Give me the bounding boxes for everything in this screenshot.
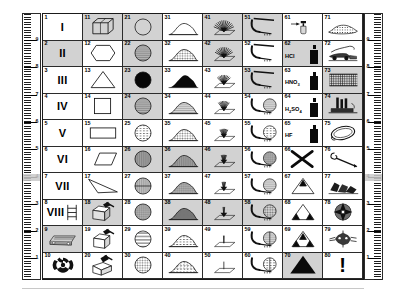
grid-cell-52[interactable]: 52 bbox=[243, 41, 283, 68]
grid-cell-59[interactable]: 59 bbox=[243, 226, 283, 253]
grid-cell-27[interactable]: 27 bbox=[123, 173, 163, 200]
grid-cell-41[interactable]: 41 bbox=[203, 14, 243, 41]
ruler-tick bbox=[374, 118, 381, 119]
ruler-label-5: 5 bbox=[36, 146, 39, 151]
grid-cell-48[interactable]: 48 bbox=[203, 200, 243, 227]
grid-cell-47[interactable]: 47 bbox=[203, 173, 243, 200]
ruler-tick bbox=[374, 30, 381, 31]
grid-cell-66[interactable]: 66 bbox=[283, 147, 323, 174]
grid-cell-35[interactable]: 35 bbox=[163, 120, 203, 147]
grid-cell-60[interactable]: 60 bbox=[243, 253, 283, 280]
ruler-tick bbox=[24, 50, 31, 51]
grid-cell-54[interactable]: 54 bbox=[243, 94, 283, 121]
grid-cell-51[interactable]: 51 bbox=[243, 14, 283, 41]
grid-cell-11[interactable]: 11 bbox=[83, 14, 123, 41]
grid-cell-67[interactable]: 67 bbox=[283, 173, 323, 200]
ruler-tick bbox=[374, 170, 381, 171]
grid-cell-50[interactable]: 50 bbox=[203, 253, 243, 280]
grid-cell-76[interactable]: 76 bbox=[323, 147, 363, 174]
grid-cell-80[interactable]: 80! bbox=[323, 253, 363, 280]
grid-cell-64[interactable]: 64H2SO4 bbox=[283, 94, 323, 121]
grid-cell-38[interactable]: 38 bbox=[163, 200, 203, 227]
grid-cell-26[interactable]: 26 bbox=[123, 147, 163, 174]
grid-cell-77[interactable]: 77 bbox=[323, 173, 363, 200]
grid-cell-79[interactable]: 79 bbox=[323, 226, 363, 253]
grid-cell-74[interactable]: 74 bbox=[323, 94, 363, 121]
grid-cell-23[interactable]: 23 bbox=[123, 67, 163, 94]
grid-cell-68[interactable]: 68 bbox=[283, 200, 323, 227]
ruler-tick bbox=[374, 237, 381, 238]
grid-cell-49[interactable]: 49 bbox=[203, 226, 243, 253]
grid-cell-39[interactable]: 39 bbox=[163, 226, 203, 253]
grid-cell-61[interactable]: 61 bbox=[283, 14, 323, 41]
grid-cell-8[interactable]: 8VIII bbox=[43, 200, 83, 227]
cell-number-33: 33 bbox=[165, 68, 171, 73]
grid-cell-19[interactable]: 19 bbox=[83, 226, 123, 253]
grid-cell-16[interactable]: 16 bbox=[83, 147, 123, 174]
grid-cell-3[interactable]: 3III bbox=[43, 67, 83, 94]
grid-cell-63[interactable]: 63HNO3 bbox=[283, 67, 323, 94]
grid-cell-58[interactable]: 58 bbox=[243, 200, 283, 227]
grid-cell-4[interactable]: 4IV bbox=[43, 94, 83, 121]
grid-cell-53[interactable]: 53 bbox=[243, 67, 283, 94]
grid-cell-28[interactable]: 28 bbox=[123, 200, 163, 227]
grid-cell-15[interactable]: 15 bbox=[83, 120, 123, 147]
ruler-label-6: 6 bbox=[367, 119, 370, 124]
grid-cell-69[interactable]: 69 bbox=[283, 226, 323, 253]
grid-cell-57[interactable]: 57 bbox=[243, 173, 283, 200]
grid-cell-71[interactable]: 71 bbox=[323, 14, 363, 41]
grid-cell-14[interactable]: 14 bbox=[83, 94, 123, 121]
grid-cell-56[interactable]: 56 bbox=[243, 147, 283, 174]
grid-cell-70[interactable]: 70 bbox=[283, 253, 323, 280]
grid-cell-29[interactable]: 29 bbox=[123, 226, 163, 253]
grid-cell-25[interactable]: 25 bbox=[123, 120, 163, 147]
grid-cell-2[interactable]: 2II bbox=[43, 41, 83, 68]
grid-cell-73[interactable]: 73 bbox=[323, 67, 363, 94]
grid-cell-42[interactable]: 42 bbox=[203, 41, 243, 68]
ruler-tick bbox=[24, 115, 31, 116]
grid-cell-5[interactable]: 5V bbox=[43, 120, 83, 147]
grid-cell-45[interactable]: 45 bbox=[203, 120, 243, 147]
grid-cell-9[interactable]: 9 bbox=[43, 226, 83, 253]
grid-cell-40[interactable]: 40 bbox=[163, 253, 203, 280]
ruler-tick bbox=[374, 266, 381, 267]
grid-cell-37[interactable]: 37 bbox=[163, 173, 203, 200]
grid-cell-46[interactable]: 46 bbox=[203, 147, 243, 174]
ruler-tick bbox=[374, 69, 381, 70]
grid-cell-30[interactable]: 30 bbox=[123, 253, 163, 280]
grid-cell-78[interactable]: 78 bbox=[323, 200, 363, 227]
ruler-tick bbox=[374, 50, 381, 51]
grid-cell-75[interactable]: 75 bbox=[323, 120, 363, 147]
grid-cell-7[interactable]: 7VII bbox=[43, 173, 83, 200]
grid-cell-72[interactable]: 72 bbox=[323, 41, 363, 68]
grid-cell-13[interactable]: 13 bbox=[83, 67, 123, 94]
grid-cell-43[interactable]: 43 bbox=[203, 67, 243, 94]
grid-cell-10[interactable]: 10 bbox=[43, 253, 83, 280]
grid-cell-17[interactable]: 17 bbox=[83, 173, 123, 200]
grid-cell-65[interactable]: 65HF bbox=[283, 120, 323, 147]
cell-number-80: 80 bbox=[325, 253, 331, 258]
grid-cell-62[interactable]: 62HCl bbox=[283, 41, 323, 68]
grid-cell-22[interactable]: 22 bbox=[123, 41, 163, 68]
grid-cell-32[interactable]: 32 bbox=[163, 41, 203, 68]
cell-number-4: 4 bbox=[45, 94, 48, 99]
grid-cell-6[interactable]: 6VI bbox=[43, 147, 83, 174]
ruler-label-1: 1 bbox=[36, 255, 39, 260]
grid-cell-20[interactable]: 20 bbox=[83, 253, 123, 280]
grid-cell-44[interactable]: 44 bbox=[203, 94, 243, 121]
grid-cell-34[interactable]: 34 bbox=[163, 94, 203, 121]
grid-cell-18[interactable]: 18 bbox=[83, 200, 123, 227]
grid-cell-36[interactable]: 36 bbox=[163, 147, 203, 174]
grid-cell-33[interactable]: 33 bbox=[163, 67, 203, 94]
roman-numeral-label: II bbox=[59, 47, 66, 59]
ruler-tick bbox=[374, 27, 381, 28]
ruler-tick bbox=[374, 274, 381, 275]
grid-cell-12[interactable]: 12 bbox=[83, 41, 123, 68]
grid-cell-24[interactable]: 24 bbox=[123, 94, 163, 121]
ruler-tick bbox=[374, 219, 381, 220]
grid-cell-1[interactable]: 1I bbox=[43, 14, 83, 41]
grid-cell-21[interactable]: 21 bbox=[123, 14, 163, 41]
grid-cell-31[interactable]: 31 bbox=[163, 14, 203, 41]
roman-numeral-VIII-ladder-icon: VIII bbox=[43, 200, 82, 226]
grid-cell-55[interactable]: 55 bbox=[243, 120, 283, 147]
